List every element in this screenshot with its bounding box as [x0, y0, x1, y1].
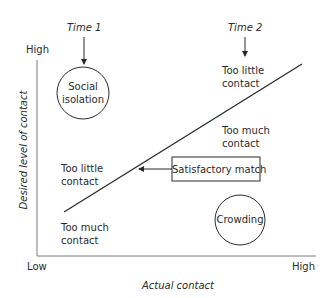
time1-label: Time 1: [67, 21, 101, 34]
x-axis-title: Actual contact: [128, 279, 228, 292]
x-axis-low-label: Low: [27, 260, 47, 273]
callout-label: Satisfactory match: [172, 163, 260, 176]
region-lower-left-line2: contact: [61, 234, 109, 247]
region-lower-left-line1: Too much: [61, 221, 109, 234]
region-lower-left: Too much contact: [61, 221, 109, 247]
diagram-canvas: [0, 0, 332, 298]
time2-label: Time 2: [228, 21, 262, 34]
region-upper-right: Too little contact: [222, 64, 264, 90]
crowding-label: Crowding: [214, 213, 266, 226]
region-middle-right: Too much contact: [222, 124, 270, 150]
y-axis-title: Desired level of contact: [17, 85, 30, 215]
region-middle-right-line2: contact: [222, 137, 270, 150]
region-middle-left-line2: contact: [61, 175, 103, 188]
region-middle-left: Too little contact: [61, 162, 103, 188]
y-axis-high-label: High: [26, 43, 49, 56]
x-axis-high-label: High: [292, 260, 315, 273]
region-middle-left-line1: Too little: [61, 162, 103, 175]
region-upper-right-line2: contact: [222, 77, 264, 90]
social-isolation-line1: Social: [57, 80, 109, 93]
region-upper-right-line1: Too little: [222, 64, 264, 77]
region-middle-right-line1: Too much: [222, 124, 270, 137]
social-isolation-line2: isolation: [57, 93, 109, 106]
social-isolation-label: Social isolation: [57, 80, 109, 106]
